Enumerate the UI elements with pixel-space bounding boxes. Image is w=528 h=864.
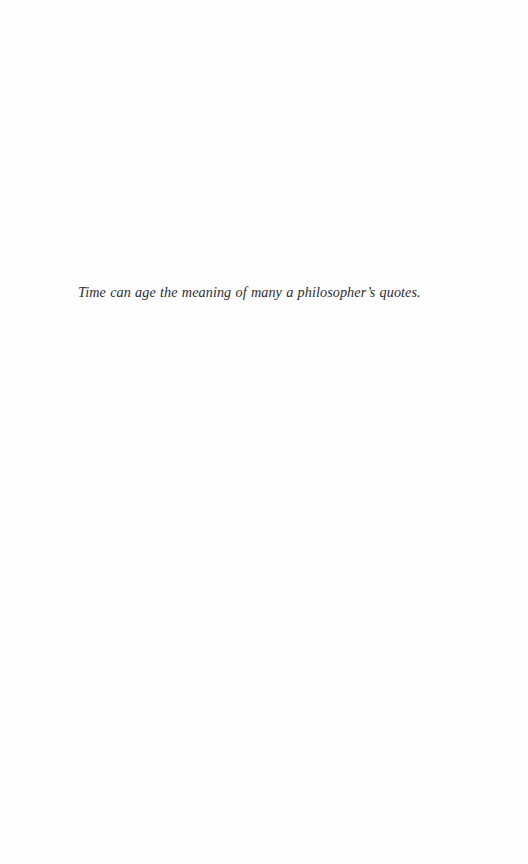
book-page: Time can age the meaning of many a philo… — [0, 0, 528, 864]
epigraph-text: Time can age the meaning of many a philo… — [78, 283, 458, 301]
paper-grain-texture — [0, 0, 528, 864]
epigraph-block: Time can age the meaning of many a philo… — [78, 283, 458, 301]
